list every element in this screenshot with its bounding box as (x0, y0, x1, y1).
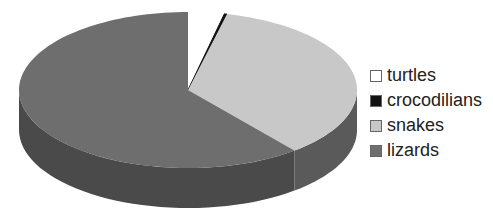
legend-item-snakes: snakes (370, 113, 482, 138)
legend-label: snakes (387, 115, 444, 136)
legend-swatch-lizards (370, 145, 382, 157)
legend-swatch-snakes (370, 120, 382, 132)
legend-label: crocodilians (387, 90, 482, 111)
legend-item-lizards: lizards (370, 138, 482, 163)
legend-label: turtles (387, 65, 436, 86)
pie-slices (19, 12, 357, 168)
legend-label: lizards (387, 140, 439, 161)
legend: turtles crocodilians snakes lizards (370, 63, 482, 163)
legend-item-crocodilians: crocodilians (370, 88, 482, 113)
legend-item-turtles: turtles (370, 63, 482, 88)
legend-swatch-crocodilians (370, 95, 382, 107)
legend-swatch-turtles (370, 70, 382, 82)
